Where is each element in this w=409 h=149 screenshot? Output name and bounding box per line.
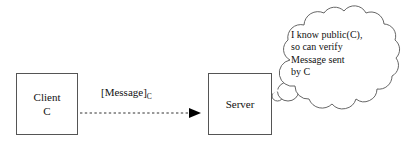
client-node[interactable]: Client C	[16, 73, 78, 135]
client-node-label-line-1: Client	[34, 90, 61, 104]
message-arrow-head	[189, 108, 201, 118]
server-node[interactable]: Server	[208, 73, 272, 135]
client-node-label-line-2: C	[43, 104, 50, 118]
message-arrow	[80, 108, 201, 118]
diagram-canvas: Client C Server [Message]C I know public…	[0, 0, 409, 149]
thought-bubble-line-3: Message sent	[291, 54, 383, 66]
message-arrow-label: [Message]C	[101, 86, 152, 98]
thought-bubble-text: I know public(C), so can verify Message …	[291, 29, 383, 79]
thought-bubble-line-4: by C	[291, 66, 383, 78]
message-arrow-label-text: [Message]	[101, 86, 147, 98]
thought-bubble-line-2: so can verify	[291, 41, 383, 53]
server-node-label-line-1: Server	[226, 97, 255, 111]
message-arrow-label-subscript: C	[147, 92, 152, 101]
thought-bubble-line-1: I know public(C),	[291, 29, 383, 41]
